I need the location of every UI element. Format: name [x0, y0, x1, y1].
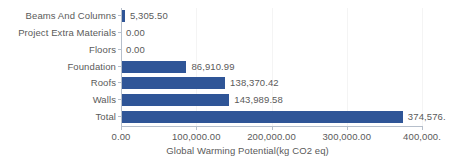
x-axis-title: Global Warming Potential(kg CO2 eq)	[0, 145, 463, 156]
x-axis-tick-label: 200,000.00	[247, 131, 296, 143]
bar-row: Floors0.00	[121, 42, 463, 59]
bar-row: Foundation86,910.99	[121, 59, 463, 76]
bar-row: Roofs138,370.42	[121, 75, 463, 92]
bar-value-label: 138,370.42	[230, 76, 279, 90]
bar-value-label: 5,305.50	[130, 9, 168, 23]
bar-row: Total374,576.	[121, 109, 463, 126]
category-label: Total	[95, 110, 116, 124]
bar-value-label: 143,989.58	[234, 93, 283, 107]
bar-chart: Beams And Columns5,305.50Project Extra M…	[0, 0, 463, 162]
x-axis-tick-label: 0.00	[112, 131, 131, 143]
category-label: Beams And Columns	[26, 9, 116, 23]
category-label: Foundation	[67, 60, 116, 74]
bar	[121, 94, 229, 106]
x-axis-tick	[422, 126, 423, 130]
bar-value-label: 0.00	[126, 26, 145, 40]
x-axis-tick-label: 300,000.00	[322, 131, 371, 143]
category-label: Project Extra Materials	[18, 26, 116, 40]
x-axis-tick	[121, 126, 122, 130]
bar-row: Project Extra Materials0.00	[121, 25, 463, 42]
x-axis-tick-label: 400,000.	[403, 131, 441, 143]
bar-value-label: 0.00	[126, 43, 145, 57]
category-label: Roofs	[91, 76, 116, 90]
bar-value-label: 374,576.	[408, 110, 446, 124]
bar	[121, 61, 186, 73]
x-axis-tick-label: 100,000.00	[172, 131, 221, 143]
category-axis-line	[121, 8, 122, 126]
x-axis-tick	[196, 126, 197, 130]
category-label: Floors	[89, 43, 116, 57]
category-label: Walls	[93, 93, 116, 107]
bar-row: Walls143,989.58	[121, 92, 463, 109]
bar-value-label: 86,910.99	[191, 60, 234, 74]
x-axis-tick	[272, 126, 273, 130]
x-axis-title-label: Global Warming Potential(kg CO2 eq)	[166, 145, 329, 156]
plot-area: Beams And Columns5,305.50Project Extra M…	[121, 8, 463, 126]
bar	[121, 77, 225, 89]
x-axis-tick	[347, 126, 348, 130]
bar	[121, 111, 403, 123]
bar-row: Beams And Columns5,305.50	[121, 8, 463, 25]
